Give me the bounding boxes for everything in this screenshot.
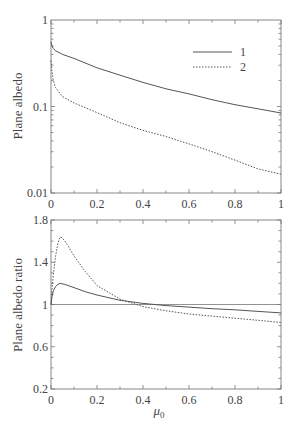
bottom-ticks: 0.20.611.41.800.20.40.60.81 <box>33 213 284 407</box>
x-tick-label: 1 <box>278 393 284 407</box>
y-tick-label: 0.2 <box>33 382 48 396</box>
x-tick-label: 0.8 <box>228 393 243 407</box>
bottom-y-axis-label: Plane albedo ratio <box>10 258 25 352</box>
series-1-line <box>51 42 281 113</box>
y-tick-label: 0.6 <box>33 340 48 354</box>
x-tick-label: 0 <box>48 197 54 211</box>
x-tick-label: 0.4 <box>136 393 151 407</box>
bottom-panel: 0.20.611.41.800.20.40.60.81 Plane albedo… <box>10 213 284 420</box>
x-tick-label: 0.4 <box>136 197 151 211</box>
bottom-curves <box>51 237 281 323</box>
top-y-axis-label: Plane albedo <box>10 73 25 140</box>
top-curves <box>51 42 281 174</box>
x-axis-label-subscript: 0 <box>160 410 165 420</box>
x-axis-label: μ0 <box>152 403 165 420</box>
x-tick-label: 0 <box>48 393 54 407</box>
y-tick-label: 1 <box>42 298 48 312</box>
legend-label-2: 2 <box>240 60 246 74</box>
y-tick-label: 0.1 <box>33 100 48 114</box>
series-2-line <box>51 61 281 175</box>
legend: 1 2 <box>193 45 246 74</box>
x-tick-label: 1 <box>278 197 284 211</box>
x-tick-label: 0.6 <box>182 393 197 407</box>
x-tick-label: 0.2 <box>90 393 105 407</box>
y-tick-label: 0.01 <box>27 186 48 200</box>
x-tick-label: 0.8 <box>228 197 243 211</box>
series-2-line <box>51 237 281 323</box>
x-tick-label: 0.2 <box>90 197 105 211</box>
top-ticks: 0.010.1100.20.40.60.81 <box>27 13 284 211</box>
y-tick-label: 1.8 <box>33 213 48 227</box>
figure: 0.010.1100.20.40.60.81 Plane albedo 1 2 … <box>0 0 298 437</box>
x-tick-label: 0.6 <box>182 197 197 211</box>
top-panel: 0.010.1100.20.40.60.81 Plane albedo 1 2 <box>10 13 284 211</box>
y-tick-label: 1.4 <box>33 255 48 269</box>
y-tick-label: 1 <box>42 13 48 27</box>
legend-label-1: 1 <box>240 45 246 59</box>
series-1-line <box>51 283 281 313</box>
